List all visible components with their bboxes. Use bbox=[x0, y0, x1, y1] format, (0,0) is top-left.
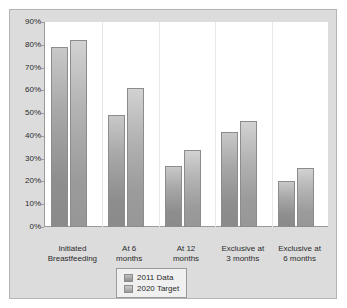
plot-area bbox=[44, 22, 328, 227]
y-axis-tick-label: 20% bbox=[11, 177, 41, 185]
x-axis-label-line: 3 months bbox=[214, 254, 271, 264]
x-axis-label-line: Breastfeeding bbox=[44, 254, 101, 264]
y-axis-tick-label: 0% bbox=[11, 223, 41, 231]
group-separator bbox=[272, 22, 273, 227]
group-separator bbox=[215, 22, 216, 227]
y-axis-tick-label: 70% bbox=[11, 64, 41, 72]
y-axis-tick-mark bbox=[41, 22, 44, 23]
x-axis-label-line: 6 months bbox=[271, 254, 328, 264]
x-axis-label-line: months bbox=[101, 254, 158, 264]
y-axis-tick-label: 80% bbox=[11, 41, 41, 49]
bar-group bbox=[102, 22, 159, 227]
legend-item-label: 2020 Target bbox=[137, 284, 179, 293]
x-axis-category-label: Exclusive at6 months bbox=[271, 244, 328, 264]
bar bbox=[184, 150, 201, 227]
group-separator bbox=[102, 22, 103, 227]
y-axis-tick-mark bbox=[41, 204, 44, 205]
x-axis-category-label: Exclusive at3 months bbox=[214, 244, 271, 264]
x-axis-label-line: At 12 bbox=[158, 244, 215, 254]
bar-group bbox=[45, 22, 102, 227]
legend-item: 2011 Data bbox=[124, 272, 179, 283]
legend-item: 2020 Target bbox=[124, 283, 179, 294]
legend-swatch-icon bbox=[124, 274, 133, 282]
plot-area-wrapper: 90%80%70%60%50%40%30%20%10%0% InitiatedB… bbox=[44, 22, 328, 227]
bar bbox=[51, 47, 68, 227]
bar bbox=[108, 115, 125, 227]
y-axis-tick-mark bbox=[41, 68, 44, 69]
bar bbox=[278, 181, 295, 227]
chart-legend: 2011 Data 2020 Target bbox=[116, 268, 187, 298]
y-axis-tick-label: 40% bbox=[11, 132, 41, 140]
x-axis-label-line: Initiated bbox=[44, 244, 101, 254]
y-axis-tick-label: 90% bbox=[11, 18, 41, 26]
bar-group bbox=[272, 22, 329, 227]
x-axis-category-label: At 12months bbox=[158, 244, 215, 264]
legend-swatch-icon bbox=[124, 285, 133, 293]
bar-group bbox=[159, 22, 216, 227]
bar-group bbox=[215, 22, 272, 227]
y-axis-tick-mark bbox=[41, 45, 44, 46]
x-axis-category-label: At 6months bbox=[101, 244, 158, 264]
bar bbox=[221, 132, 238, 227]
x-axis-label-line: Exclusive at bbox=[271, 244, 328, 254]
chart-container: 90%80%70%60%50%40%30%20%10%0% InitiatedB… bbox=[9, 9, 337, 299]
bar bbox=[165, 166, 182, 228]
y-axis-tick-mark bbox=[41, 136, 44, 137]
y-axis-tick-label: 30% bbox=[11, 155, 41, 163]
y-axis-tick-label: 50% bbox=[11, 109, 41, 117]
y-axis-tick-label: 60% bbox=[11, 86, 41, 94]
x-axis-label-line: At 6 bbox=[101, 244, 158, 254]
bar bbox=[240, 121, 257, 227]
bar bbox=[70, 40, 87, 227]
x-axis-label-line: months bbox=[158, 254, 215, 264]
legend-item-label: 2011 Data bbox=[137, 273, 173, 282]
bar bbox=[297, 168, 314, 227]
y-axis-tick-mark bbox=[41, 227, 44, 228]
group-separator bbox=[159, 22, 160, 227]
bar bbox=[127, 88, 144, 227]
y-axis-tick-label: 10% bbox=[11, 200, 41, 208]
y-axis-tick-mark bbox=[41, 90, 44, 91]
x-axis-category-label: InitiatedBreastfeeding bbox=[44, 244, 101, 264]
y-axis-tick-mark bbox=[41, 159, 44, 160]
bars-layer bbox=[45, 22, 328, 227]
y-axis-tick-mark bbox=[41, 113, 44, 114]
x-axis-label-line: Exclusive at bbox=[214, 244, 271, 254]
y-axis-tick-mark bbox=[41, 181, 44, 182]
